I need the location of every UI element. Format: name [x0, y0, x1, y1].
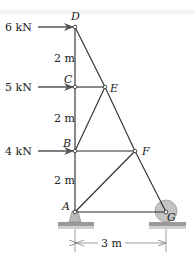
load-label-b: 4 kN: [5, 145, 32, 158]
node-label-g: G: [167, 211, 176, 224]
dim-label-dc: 2 m: [54, 52, 75, 65]
dim-label-ba: 2 m: [54, 174, 75, 187]
member-ef: [105, 87, 135, 151]
node-label-f: F: [141, 145, 150, 158]
ground-a: [58, 222, 94, 229]
node-e: [103, 85, 107, 89]
member-be: [75, 87, 105, 151]
load-label-c: 5 kN: [5, 81, 32, 94]
member-fg: [135, 151, 166, 212]
truss-diagram: 6 kN 5 kN 4 kN D C B A E F G 2 m 2 m 2 m…: [0, 0, 195, 262]
node-f: [133, 149, 137, 153]
node-label-b: B: [62, 137, 71, 150]
member-af: [75, 151, 135, 212]
node-label-a: A: [61, 200, 70, 213]
node-d: [73, 25, 77, 29]
node-a: [73, 210, 77, 214]
node-c: [73, 85, 77, 89]
node-label-d: D: [70, 10, 80, 23]
load-label-d: 6 kN: [5, 21, 32, 34]
dim-label-ag: 3 m: [101, 237, 122, 250]
node-b: [73, 149, 77, 153]
load-arrows: [38, 27, 73, 151]
node-label-e: E: [109, 82, 118, 95]
node-label-c: C: [64, 73, 73, 86]
dim-label-cb: 2 m: [54, 112, 75, 125]
truss-members: [75, 27, 166, 212]
member-de: [75, 27, 105, 87]
